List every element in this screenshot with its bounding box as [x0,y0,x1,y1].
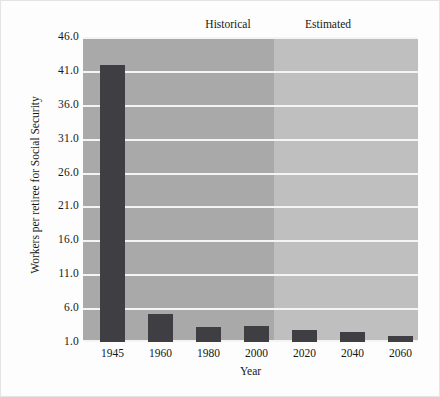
y-tick-label: 31.0 [33,132,79,144]
y-tick-label: 46.0 [33,30,79,42]
gridline [83,139,418,141]
x-tick-label: 2040 [341,347,364,359]
x-axis-ticks: 1945 1960 1980 2000 2020 2040 2060 [83,347,418,363]
annotation-estimated: Estimated [305,18,351,30]
x-tick-label: 1980 [197,347,220,359]
x-tick-label: 1945 [101,347,124,359]
gridline [83,37,418,39]
gridline [83,240,418,242]
bar-1980 [196,327,221,342]
bar-2060 [388,336,413,342]
y-tick-label: 26.0 [33,166,79,178]
gridline [83,206,418,208]
gridline [83,274,418,276]
gridline [83,173,418,175]
plot-area [83,37,418,342]
bar-2000 [244,326,269,343]
y-tick-label: 16.0 [33,233,79,245]
y-tick-label: 6.0 [33,301,79,313]
y-tick-label: 1.0 [33,335,79,347]
x-tick-label: 1960 [149,347,172,359]
chart-figure: Historical Estimated Workers per retiree… [0,0,440,397]
gridline [83,308,418,310]
band-estimated [274,37,418,342]
bar-2020 [292,330,317,343]
y-tick-label: 36.0 [33,98,79,110]
annotation-historical: Historical [205,18,250,30]
x-tick-label: 2060 [389,347,412,359]
y-tick-label: 21.0 [33,199,79,211]
x-axis-title: Year [83,365,418,377]
bar-2040 [340,332,365,342]
x-tick-label: 2000 [245,347,268,359]
gridline [83,71,418,73]
y-tick-label: 11.0 [33,267,79,279]
y-tick-label: 41.0 [33,64,79,76]
y-axis-ticks: 46.0 41.0 36.0 31.0 26.0 21.0 16.0 11.0 … [27,37,79,342]
gridline [83,105,418,107]
x-tick-label: 2020 [293,347,316,359]
bar-1945 [100,65,125,342]
bar-1960 [148,314,173,342]
